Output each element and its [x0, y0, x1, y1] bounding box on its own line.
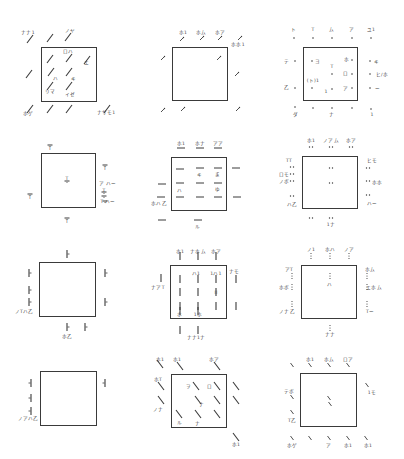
mark-label: イゼ	[65, 92, 75, 97]
mark-label: T ハー	[100, 199, 115, 204]
mark-label: エ	[84, 60, 89, 65]
mark-label: ホボ	[279, 285, 289, 290]
mark-label: 1モ	[368, 390, 376, 395]
mark-label: ル	[195, 224, 200, 229]
mark-label: T	[48, 146, 51, 151]
mark-label: ナアT	[151, 285, 164, 290]
mark-label: 1ホ	[194, 312, 202, 317]
mark-label: ll	[215, 290, 218, 295]
mark-label: ナ	[199, 402, 204, 407]
mark-label: ノ1	[307, 247, 315, 252]
mark-label: ホム	[324, 357, 334, 362]
mark-label: ホ1	[364, 443, 372, 448]
mark-label: ロ	[207, 384, 212, 389]
mark-label: アア	[213, 141, 223, 146]
mark-label: 1	[324, 89, 327, 94]
mark-label: ホホ1	[231, 42, 245, 47]
mark-label: T	[102, 188, 105, 193]
mark-label: エホム	[366, 285, 382, 290]
mark-label: ホア	[346, 138, 356, 143]
mark-label: ハー	[367, 201, 377, 206]
mark-label: ホ1	[307, 138, 315, 143]
mark-label: ノア	[344, 247, 354, 252]
mark-label: ハ	[327, 282, 332, 287]
mark-label: ア	[343, 86, 348, 91]
mark-label: ナサモ1	[97, 110, 116, 115]
mark-label: ホア	[209, 357, 219, 362]
mark-label: ホハ乙	[151, 201, 167, 206]
mark-label: ホム	[196, 30, 206, 35]
mark-label: TT	[286, 158, 292, 163]
mark-label: T	[28, 195, 31, 200]
mark-label: ナ	[195, 421, 200, 426]
mark-label: ダ	[293, 112, 298, 117]
square-outline	[40, 371, 97, 426]
mark-label: ま	[215, 172, 220, 177]
mark-label: ホ1	[176, 249, 184, 254]
mark-label: T	[103, 166, 106, 171]
mark-label: ホ1	[306, 357, 314, 362]
mark-label: Tー	[366, 309, 374, 314]
mark-label: ホ1	[177, 141, 185, 146]
mark-label: (ト)1	[307, 78, 319, 83]
mark-label: 乙	[284, 85, 289, 90]
mark-label: テ	[284, 59, 289, 64]
mark-label: ユ1	[367, 27, 375, 32]
mark-label: ホゲ	[23, 111, 33, 116]
mark-label: T	[311, 27, 314, 32]
mark-label: ロハ	[63, 49, 73, 54]
mark-label: キ	[374, 59, 379, 64]
mark-label: ヒモ	[367, 158, 377, 163]
mark-label: T	[330, 64, 333, 69]
mark-label: ホア	[211, 249, 221, 254]
mark-label: ム	[329, 27, 334, 32]
mark-label: 1	[370, 112, 373, 117]
mark-label: ホホ	[372, 180, 382, 185]
square-outline	[39, 262, 96, 317]
mark-label: ナモ	[229, 269, 239, 274]
mark-label: ホハ	[325, 247, 335, 252]
mark-label: ホ1	[344, 443, 352, 448]
mark-label: 1ハ1	[210, 271, 221, 276]
mark-label: ト	[291, 27, 296, 32]
mark-label: ナナ1	[21, 30, 35, 35]
mark-label: ホ1	[232, 442, 240, 447]
mark-label: ホ1	[156, 357, 164, 362]
mark-label: ホゲ	[287, 443, 297, 448]
mark-label: リマ	[45, 89, 55, 94]
mark-label: ア ハー	[99, 181, 116, 186]
mark-label: ア	[326, 443, 331, 448]
mark-label: ア	[349, 27, 354, 32]
mark-label: ホ乙	[62, 334, 72, 339]
mark-label: ー	[375, 86, 380, 91]
mark-label: ナホム	[190, 249, 206, 254]
mark-label: ノヤ	[65, 28, 75, 33]
mark-label: ホ	[177, 312, 182, 317]
mark-label: T	[65, 219, 68, 224]
mark-label: ノアハ乙	[18, 416, 39, 421]
mark-label: ロ	[343, 71, 348, 76]
mark-label: ナナ	[325, 332, 335, 337]
mark-label: ナ	[329, 112, 334, 117]
mark-label: ヒ/ホ	[376, 72, 388, 77]
mark-label: ホム	[365, 267, 375, 272]
mark-label: アT	[285, 267, 293, 272]
mark-label: ハ1	[192, 271, 200, 276]
mark-label: ホ	[344, 57, 349, 62]
mark-label: テボ	[284, 389, 294, 394]
mark-label: T	[65, 176, 68, 181]
mark-label: ノナ	[153, 407, 163, 412]
mark-label: ノアム	[323, 138, 339, 143]
mark-label: ホ1	[173, 357, 181, 362]
mark-label: T乙	[288, 418, 296, 423]
mark-label: ホ1	[179, 30, 187, 35]
mark-label: ナナ1ナ	[187, 335, 206, 340]
mark-label: ホT	[154, 377, 162, 382]
mark-label: ル	[177, 420, 182, 425]
mark-label: ノTハ乙	[15, 309, 34, 314]
mark-label: 1ナ	[327, 222, 335, 227]
mark-label: ホナ	[195, 141, 205, 146]
mark-label: ハ乙	[287, 202, 297, 207]
mark-label: ノボ	[279, 179, 289, 184]
mark-label: ノナ乙	[279, 309, 295, 314]
